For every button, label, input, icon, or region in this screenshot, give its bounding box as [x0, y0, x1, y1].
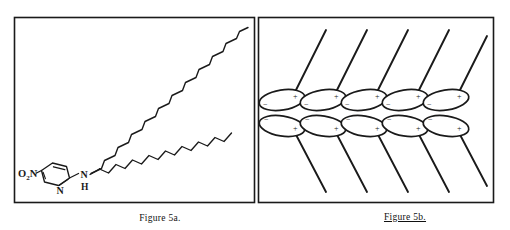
head-charge-positive: + — [334, 124, 339, 133]
amine-nitrogen-label: N — [81, 169, 89, 180]
head-charge-positive: + — [293, 124, 298, 133]
head-charge-negative: − — [345, 100, 350, 109]
panel-a-frame — [15, 18, 255, 203]
head-charge-negative: − — [387, 115, 392, 124]
figure-canvas: O2N N N H − — [0, 0, 510, 230]
head-charge-positive: + — [334, 92, 339, 101]
figure-root: O2N N N H − — [0, 0, 510, 230]
figure-5a-caption: Figure 5a. — [139, 213, 181, 223]
head-charge-positive: + — [457, 124, 462, 133]
head-charge-negative: − — [304, 100, 309, 109]
ring-nitrogen-label: N — [57, 185, 65, 196]
head-charge-positive: + — [293, 92, 298, 101]
head-charge-negative: − — [264, 115, 269, 124]
lower-row-heads: − + − + − + − + − + — [258, 113, 471, 140]
head-charge-negative: − — [427, 100, 432, 109]
figure-5a-caption-wrapper: Figure 5a. — [90, 207, 230, 225]
amine-hydrogen-label: H — [81, 182, 89, 192]
head-charge-negative: − — [346, 115, 351, 124]
head-charge-positive: + — [375, 124, 380, 133]
head-charge-negative: − — [263, 100, 268, 109]
head-charge-positive: + — [416, 92, 421, 101]
head-charge-positive: + — [375, 92, 380, 101]
head-charge-positive: + — [416, 124, 421, 133]
panel-b-frame — [259, 18, 494, 203]
head-charge-negative: − — [386, 100, 391, 109]
figure-5b-caption: Figure 5b. — [384, 212, 426, 222]
head-charge-positive: + — [457, 92, 462, 101]
head-charge-negative: − — [305, 115, 310, 124]
figure-5b-caption-wrapper: Figure 5b. — [345, 206, 465, 224]
upper-row-heads: − + − + − + − + − + — [258, 87, 471, 114]
head-charge-negative: − — [428, 115, 433, 124]
